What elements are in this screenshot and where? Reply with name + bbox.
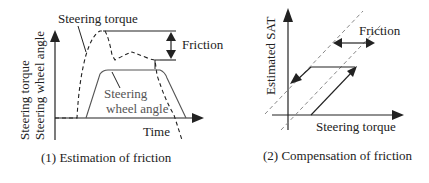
dashed-guide-left — [265, 11, 363, 114]
x-axis-label-time: Time — [143, 124, 170, 139]
panel-compensation-of-friction: Friction Steering torque Estimated SAT — [263, 8, 404, 134]
friction-horizontal-double-arrow-icon — [333, 38, 375, 48]
friction-double-arrow-icon — [166, 32, 176, 59]
caption-compensation-of-friction: (2) Compensation of friction — [263, 148, 412, 164]
friction-label-panel2: Friction — [359, 23, 401, 38]
y-axis-label-estimated-sat: Estimated SAT — [263, 17, 278, 95]
steering-torque-curve-label: Steering torque — [58, 11, 138, 26]
y-axis-label-steering-torque: Steering torque — [17, 60, 32, 140]
panel-estimation-of-friction: Steering torque Friction Steering wheel … — [17, 11, 224, 140]
y-axis — [50, 30, 60, 140]
down-left-arrow-icon — [290, 73, 302, 84]
x-axis-label-steering-torque: Steering torque — [316, 119, 396, 134]
steering-wheel-angle-label-line2: wheel angle — [106, 101, 169, 116]
caption-estimation-of-friction: (1) Estimation of friction — [41, 150, 171, 166]
x-axis-arrow-icon — [192, 113, 204, 123]
y-axis-label-steering-wheel-angle: Steering wheel angle — [32, 31, 47, 140]
y-axis-arrow-icon — [50, 30, 60, 42]
y-axis-arrow-icon — [283, 8, 293, 22]
y-axis-estimated-sat — [283, 8, 293, 130]
friction-label-panel1: Friction — [182, 37, 224, 52]
steering-wheel-angle-label-line1: Steering — [104, 86, 148, 101]
